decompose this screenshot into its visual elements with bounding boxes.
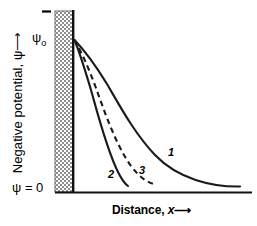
curve-2-path: [75, 40, 129, 186]
y-axis-arrow: ⟶: [10, 34, 25, 51]
y-axis-title-text: Negative potential, ψ: [10, 51, 25, 174]
y-tick-label-psi-naught: ψo: [32, 30, 46, 48]
curve-label-1: 1: [168, 146, 174, 158]
x-axis-title-text: Distance,: [112, 203, 164, 217]
x-axis-arrow: ⟶: [174, 203, 189, 217]
charged-surface-block: [55, 11, 73, 192]
y-axis-title: Negative potential, ψ⟶: [10, 14, 25, 194]
psi-symbol: ψ: [32, 30, 41, 45]
potential-decay-figure: Negative potential, ψ⟶ ψo ψ = 0 Distance…: [0, 0, 257, 226]
curve-label-3: 3: [139, 164, 145, 176]
curve-3-path: [75, 40, 157, 185]
curve-label-2: 2: [108, 168, 114, 180]
psi-subscript: o: [41, 38, 46, 48]
y-tick-label-psi-zero: ψ = 0: [12, 180, 43, 195]
x-axis-title: Distance, x⟶: [112, 203, 189, 217]
curve-1-path: [75, 40, 241, 187]
